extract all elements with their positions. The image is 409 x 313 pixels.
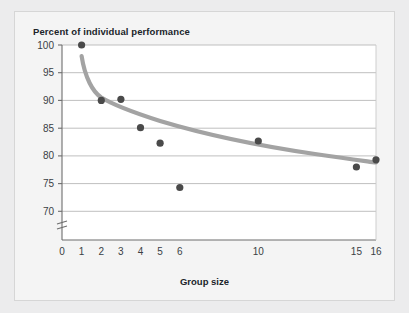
y-tick-label-75: 75 [43, 178, 55, 189]
data-point-g10 [255, 137, 262, 144]
data-point-g16 [372, 156, 379, 163]
y-tick-label-100: 100 [37, 40, 54, 51]
chart-plot: 100 95 90 85 80 75 70 0 1 2 3 4 5 6 10 1… [15, 12, 394, 300]
y-tick-label-95: 95 [43, 67, 55, 78]
x-tick-label-15: 15 [351, 246, 363, 257]
y-tick-marks [58, 45, 62, 211]
x-axis-title: Group size [15, 276, 394, 287]
y-tick-label-80: 80 [43, 150, 55, 161]
x-tick-label-6: 6 [177, 246, 183, 257]
x-tick-label-10: 10 [253, 246, 265, 257]
data-point-g3 [117, 96, 124, 103]
y-tick-label-85: 85 [43, 123, 55, 134]
data-point-g5 [157, 140, 164, 147]
x-tick-label-0: 0 [59, 246, 65, 257]
data-point-g1 [78, 41, 85, 48]
y-tick-label-70: 70 [43, 206, 55, 217]
data-point-g15 [353, 163, 360, 170]
plot-area-background [62, 45, 376, 240]
data-point-g6 [176, 184, 183, 191]
figure-card: Percent of individual performance [14, 11, 395, 301]
y-tick-label-90: 90 [43, 95, 55, 106]
x-tick-label-1: 1 [79, 246, 85, 257]
data-point-g2 [98, 97, 105, 104]
data-point-g4 [137, 124, 144, 131]
x-tick-label-4: 4 [138, 246, 144, 257]
x-tick-label-5: 5 [157, 246, 163, 257]
x-tick-label-3: 3 [118, 246, 124, 257]
x-tick-label-2: 2 [99, 246, 105, 257]
x-tick-label-16: 16 [370, 246, 382, 257]
